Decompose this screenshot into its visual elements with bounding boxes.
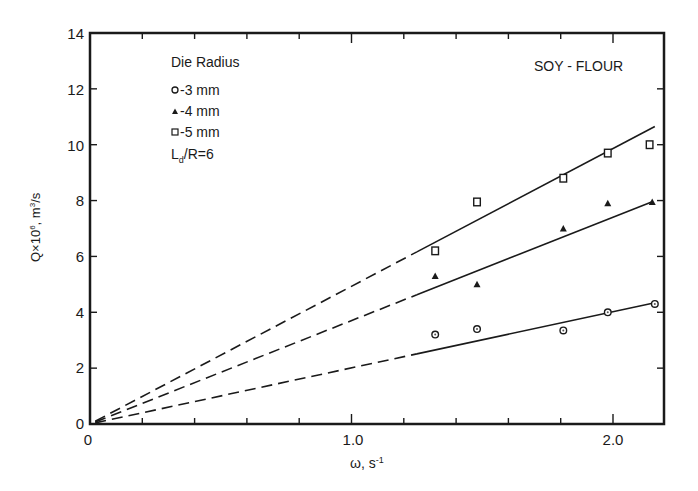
legend-3mm: -3 mm [180,82,220,98]
fit-line-dashed [95,354,417,423]
fit-line-dashed [95,295,417,422]
x-tick-2: 2.0 [603,431,624,448]
y-tick-8: 8 [76,192,84,209]
circle-marker-icon [172,87,178,93]
square-marker-icon [474,198,481,206]
triangle-marker-icon [604,200,611,207]
legend: Die Radius -3 mm -4 mm -5 mm Ld/R=6 [171,54,239,165]
y-tick-labels: 0 2 4 6 8 10 12 14 [67,25,84,432]
y-tick-4: 4 [76,304,84,321]
y-tick-12: 12 [67,81,84,98]
triangle-marker-icon [432,272,439,279]
chart-svg: 0 2 4 6 8 10 12 14 0 1.0 2.0 ω, s-1 Q×10… [0,0,698,491]
legend-5mm: -5 mm [180,124,220,140]
data-points [432,141,658,338]
y-tick-14: 14 [67,25,84,42]
fit-line-solid [417,202,652,295]
axis-ticks [90,33,664,424]
x-tick-1: 1.0 [343,431,364,448]
legend-4mm: -4 mm [180,103,220,119]
legend-title: Die Radius [171,54,239,70]
triangle-marker-icon [474,281,481,288]
y-tick-2: 2 [76,359,84,376]
square-marker-icon [432,247,439,255]
plot-frame [90,33,664,424]
x-tick-0: 0 [84,431,92,448]
fit-line-solid [417,127,655,252]
legend-ld-ratio: Ld/R=6 [171,146,214,165]
square-marker-icon [604,149,611,157]
y-tick-10: 10 [67,137,84,154]
y-tick-0: 0 [76,415,84,432]
square-marker-icon [560,174,567,182]
fit-line-dashed [95,252,417,421]
y-tick-6: 6 [76,248,84,265]
chart-title: SOY - FLOUR [534,58,623,74]
square-marker-icon [172,129,178,135]
triangle-marker-icon [649,198,656,205]
x-tick-labels: 0 1.0 2.0 [84,431,624,448]
triangle-marker-icon [172,109,178,115]
fit-lines [95,127,655,423]
fit-line-solid [417,303,655,354]
y-axis-label: Q×106, m3/s [28,192,43,262]
square-marker-icon [646,141,653,149]
triangle-marker-icon [560,225,567,232]
x-axis-label: ω, s-1 [350,455,384,471]
